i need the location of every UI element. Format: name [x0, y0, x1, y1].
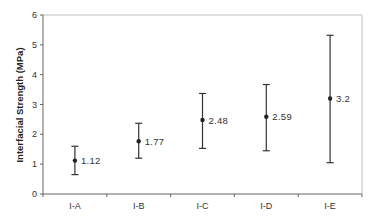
- data-point-group: 2.59: [263, 85, 292, 151]
- data-value-label: 2.48: [209, 115, 229, 126]
- y-axis-title: Interfacial Strength (MPa): [14, 47, 25, 162]
- y-tick-label: 0: [32, 189, 37, 199]
- x-tick-label: I-C: [197, 201, 209, 211]
- data-point-group: 1.77: [135, 123, 164, 158]
- data-point-marker: [328, 96, 332, 100]
- data-point-marker: [73, 158, 77, 162]
- data-series: 1.121.772.482.593.2: [71, 35, 350, 174]
- data-point-group: 2.48: [199, 93, 228, 148]
- data-point-group: 3.2: [327, 35, 351, 162]
- y-tick-label: 1: [32, 159, 37, 169]
- data-value-label: 3.2: [336, 93, 350, 104]
- data-value-label: 2.59: [272, 111, 292, 122]
- x-tick-label: I-E: [324, 201, 336, 211]
- y-tick-label: 6: [32, 10, 37, 20]
- y-axis: 0123456: [32, 10, 43, 199]
- data-value-label: 1.12: [81, 155, 101, 166]
- x-tick-label: I-B: [133, 201, 145, 211]
- x-tick-label: I-A: [69, 201, 81, 211]
- y-tick-label: 5: [32, 40, 37, 50]
- y-tick-label: 4: [32, 70, 37, 80]
- x-tick-label: I-D: [260, 201, 272, 211]
- data-point-marker: [200, 118, 204, 122]
- y-tick-label: 3: [32, 100, 37, 110]
- interfacial-strength-chart: 0123456 I-AI-BI-CI-DI-E 1.121.772.482.59…: [0, 0, 380, 222]
- data-point-marker: [137, 139, 141, 143]
- x-axis: I-AI-BI-CI-DI-E: [43, 194, 362, 211]
- data-point-marker: [264, 115, 268, 119]
- data-value-label: 1.77: [145, 136, 165, 147]
- data-point-group: 1.12: [71, 146, 100, 174]
- y-tick-label: 2: [32, 129, 37, 139]
